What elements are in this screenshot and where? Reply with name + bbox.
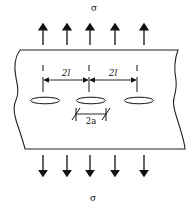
elliptical-holes: [31, 97, 154, 104]
spacing-label-left: 2l: [61, 68, 71, 78]
spacing-label-right: 2l: [108, 68, 118, 78]
dimension-ticks: [43, 65, 137, 92]
hole-right: [125, 97, 154, 104]
stress-label-top: σ: [91, 3, 97, 13]
tension-arrows-bottom: [43, 155, 144, 176]
hole-width-label: 2a: [86, 116, 96, 126]
plate-outline: [14, 50, 185, 149]
hole-middle: [77, 97, 106, 104]
tension-arrows-top: [43, 24, 144, 45]
stress-label-bottom: σ: [90, 193, 96, 203]
diagram-canvas: σ 2l 2l 2a: [0, 0, 196, 209]
hole-left: [31, 97, 60, 104]
